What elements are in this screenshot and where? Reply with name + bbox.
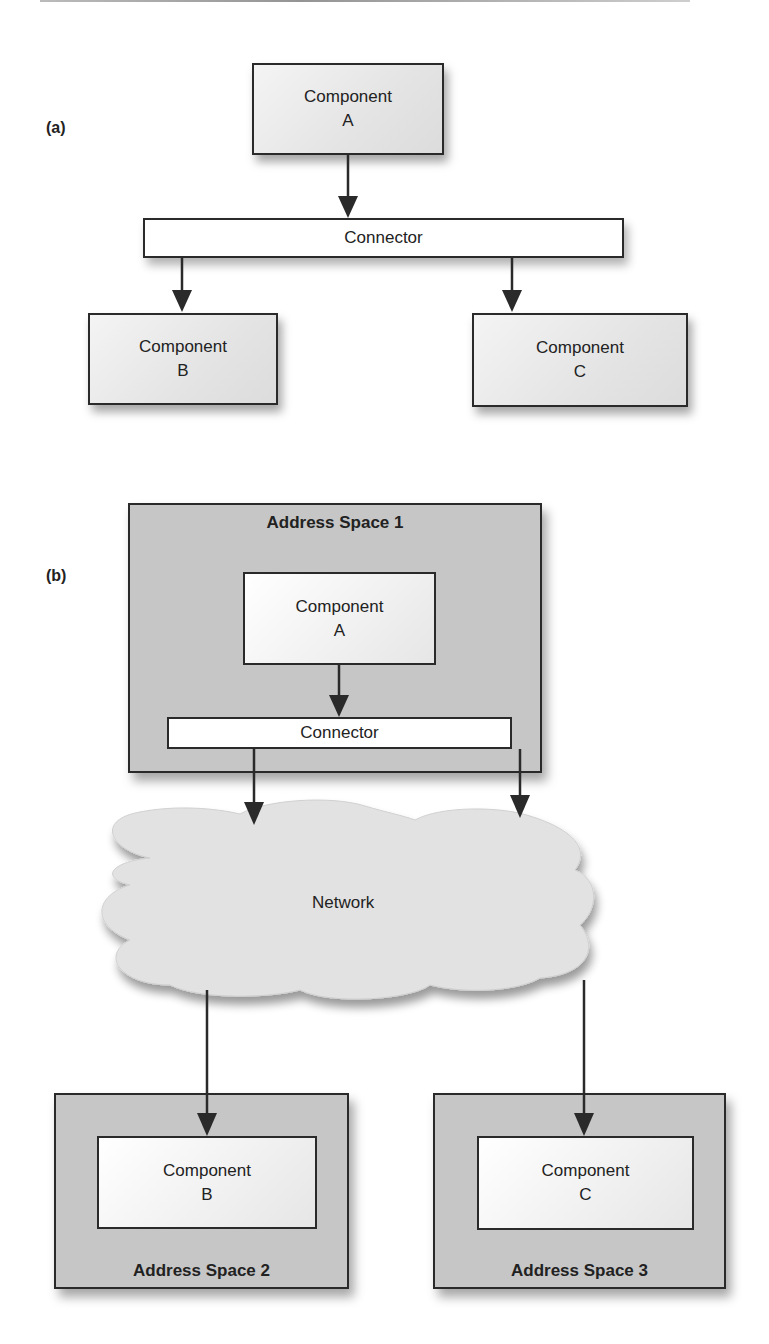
component-a-name: Component <box>304 85 392 109</box>
component-b-name: Component <box>139 335 227 359</box>
panel-b-connector: Connector <box>167 717 512 749</box>
panel-a-label: (a) <box>46 119 66 137</box>
component-c-name: Component <box>536 336 624 360</box>
panel-a-component-a: Component A <box>252 63 444 155</box>
panel-a-connector: Connector <box>143 218 624 258</box>
panel-a-arrow-a-to-connector <box>338 155 358 218</box>
panel-a-arrow-connector-to-c <box>502 258 522 312</box>
panel-a-arrow-connector-to-b <box>172 258 192 312</box>
panel-a-component-c: Component C <box>472 313 688 407</box>
panel-b-component-a: Component A <box>243 572 436 665</box>
panel-b-label: (b) <box>46 567 66 585</box>
component-a-name: Component <box>296 595 384 619</box>
component-a-id: A <box>342 109 353 133</box>
component-c-id: C <box>574 360 586 384</box>
cut-off-page-header <box>40 0 690 2</box>
address-space-2-title: Address Space 2 <box>56 1261 347 1281</box>
panel-b-component-b: Component B <box>97 1136 317 1229</box>
network-label: Network <box>312 893 374 913</box>
component-b-name: Component <box>163 1159 251 1183</box>
component-c-id: C <box>579 1183 591 1207</box>
component-b-id: B <box>201 1183 212 1207</box>
connector-label: Connector <box>344 226 422 250</box>
connector-label: Connector <box>300 721 378 745</box>
component-b-id: B <box>177 359 188 383</box>
component-c-name: Component <box>542 1159 630 1183</box>
panel-b-component-c: Component C <box>477 1136 694 1230</box>
component-a-id: A <box>334 619 345 643</box>
address-space-3-title: Address Space 3 <box>435 1261 724 1281</box>
panel-a-component-b: Component B <box>88 313 278 405</box>
address-space-1-title: Address Space 1 <box>130 513 540 533</box>
